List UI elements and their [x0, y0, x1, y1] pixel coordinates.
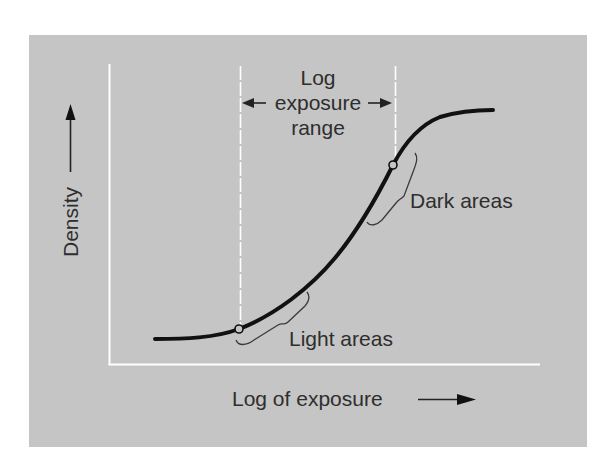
y-axis-label: Density: [59, 186, 82, 257]
range-label-line3: range: [291, 116, 345, 139]
characteristic-curve-diagram: Log exposure range Light areas Dark area…: [0, 0, 613, 468]
light-areas-label: Light areas: [289, 327, 393, 350]
x-axis-label: Log of exposure: [232, 387, 383, 410]
range-label-line1: Log: [300, 66, 335, 89]
dark-point-marker: [389, 161, 397, 169]
dark-areas-label: Dark areas: [410, 189, 513, 212]
light-point-marker: [235, 325, 243, 333]
range-label-line2: exposure: [275, 91, 361, 114]
